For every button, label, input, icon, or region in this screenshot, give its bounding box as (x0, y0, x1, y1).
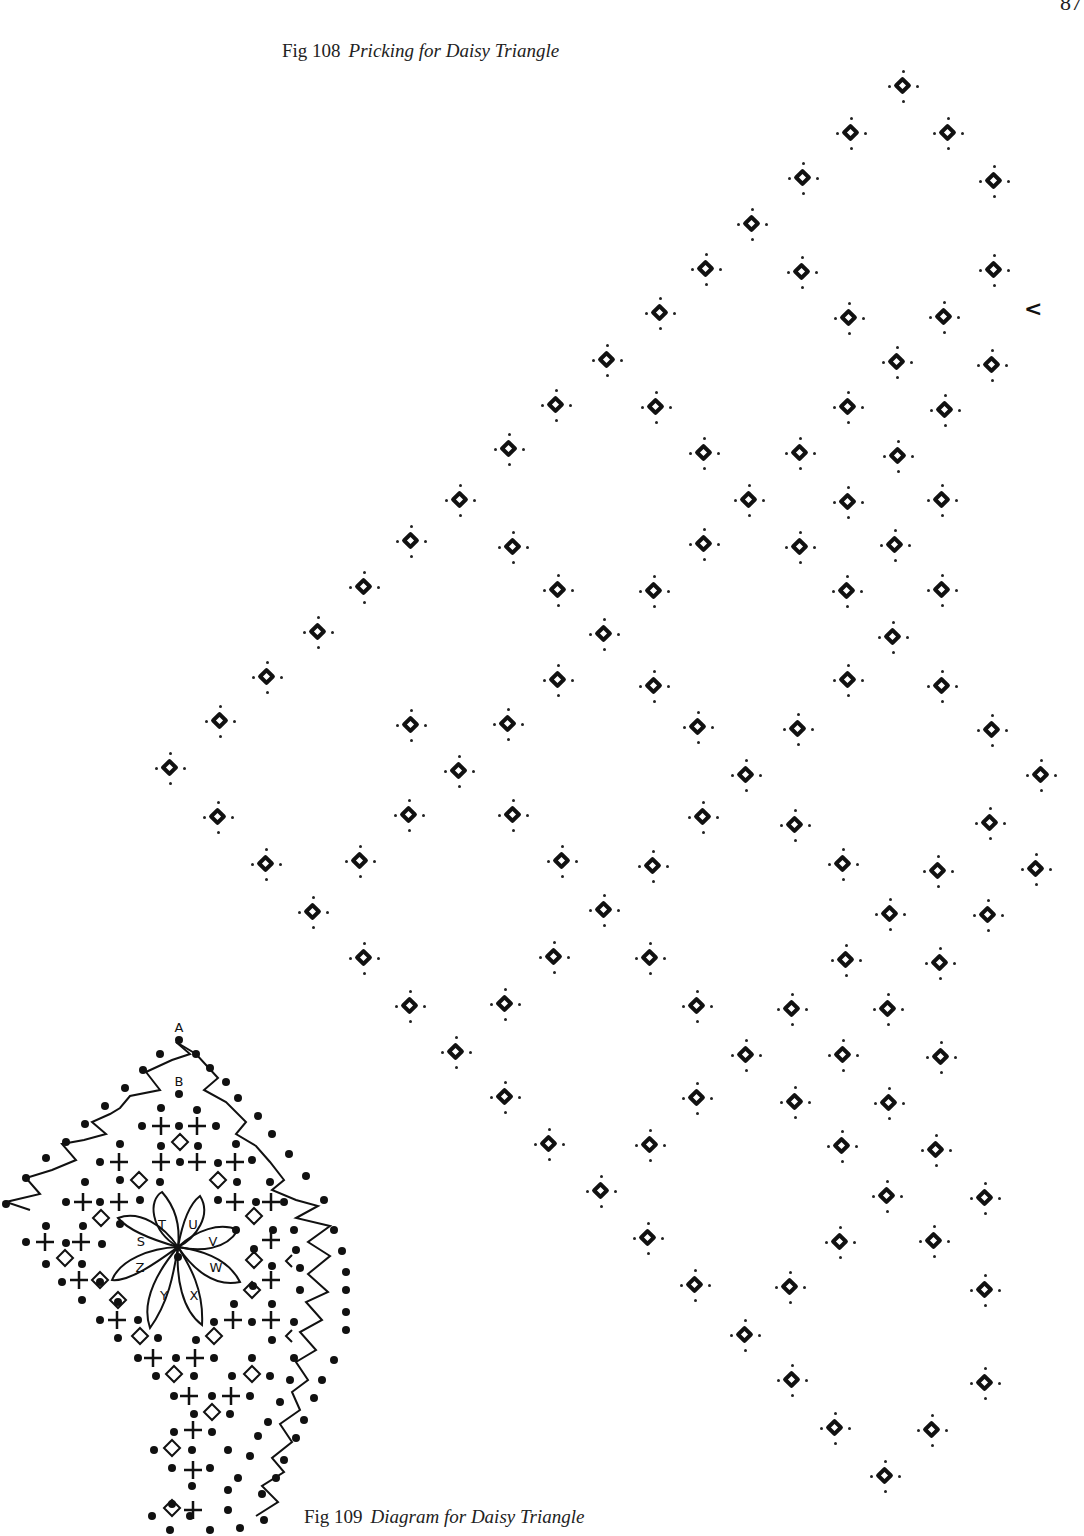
pin-dot (377, 586, 380, 589)
pricking-diamond-icon (932, 676, 950, 694)
pin-dot (828, 1054, 831, 1057)
pin-dot (653, 575, 656, 578)
pricking-diamond-icon (548, 580, 566, 598)
pin-dot (659, 297, 662, 300)
pricking-diamond-icon (885, 535, 903, 553)
pin-dot (649, 1159, 652, 1162)
pin-dot (265, 878, 268, 881)
pricking-diamond-icon (736, 765, 754, 783)
pin-dot (799, 437, 802, 440)
pin-dot (455, 1036, 458, 1039)
pricking-diamond-icon (548, 670, 566, 688)
pin-dot (847, 694, 850, 697)
pin-dot (841, 1160, 844, 1163)
pin-dot (902, 70, 905, 73)
pin-dot (941, 604, 944, 607)
pin-dot (543, 679, 546, 682)
pin-dot (363, 942, 366, 945)
diagram-label-w: W (210, 1260, 223, 1275)
pin-dot (745, 1069, 748, 1072)
pricking-diamond-icon (256, 854, 274, 872)
pin-dot (667, 685, 670, 688)
pricking-diamond-icon (552, 851, 570, 869)
pin-dot (862, 317, 865, 320)
pin-dot (921, 1149, 924, 1152)
pin-dot (926, 1056, 929, 1059)
pin-dot (839, 1226, 842, 1229)
pin-dot (512, 829, 515, 832)
pin-dot (680, 1284, 683, 1287)
pricking-diamond-icon (982, 720, 1000, 738)
pin-dot (458, 755, 461, 758)
pin-dot (799, 561, 802, 564)
pin-dot (861, 406, 864, 409)
pin-dot (423, 1005, 426, 1008)
pin-dot (797, 743, 800, 746)
pin-dot (363, 571, 366, 574)
pin-dot (522, 448, 525, 451)
pin-dot (396, 724, 399, 727)
pricking-diamond-icon (790, 443, 808, 461)
diagram-label-t: T (157, 1217, 166, 1232)
pin-dot (561, 875, 564, 878)
pin-dot (689, 452, 692, 455)
diagram-label-b: B (175, 1074, 184, 1089)
pin-dot (490, 1096, 493, 1099)
pin-dot (539, 956, 542, 959)
pin-dot (395, 1005, 398, 1008)
pin-dot (906, 636, 909, 639)
pin-dot (703, 467, 706, 470)
pin-dot (422, 814, 425, 817)
pricking-diamond-icon (449, 761, 467, 779)
pin-dot (949, 1149, 952, 1152)
pricking-diamond-icon (838, 397, 856, 415)
pin-dot (955, 685, 958, 688)
pin-dot (589, 909, 592, 912)
pin-dot (811, 728, 814, 731)
pin-dot (931, 1414, 934, 1417)
pin-dot (941, 484, 944, 487)
pin-dot (777, 1379, 780, 1382)
pin-dot (424, 724, 427, 727)
pricking-diamond-icon (696, 259, 714, 277)
lace-diagram-svg: A B T U V W X Y Z S (0, 1010, 360, 1536)
pin-dot (886, 1180, 889, 1183)
pin-dot (944, 394, 947, 397)
pin-dot (785, 452, 788, 455)
pin-dot (592, 359, 595, 362)
pin-dot (683, 726, 686, 729)
pin-dot (801, 286, 804, 289)
pin-dot (984, 1367, 987, 1370)
pin-dot (655, 421, 658, 424)
pin-dot (748, 484, 751, 487)
pricking-diamond-icon (785, 1092, 803, 1110)
chevron-mark-icon: < (1024, 298, 1042, 320)
pricking-diamond-icon (877, 1186, 895, 1204)
pin-dot (799, 531, 802, 534)
pin-dot (872, 1195, 875, 1198)
pricking-diamond-icon (257, 667, 275, 685)
pin-dot (359, 875, 362, 878)
pin-dot (846, 575, 849, 578)
pricking-diamond-icon (875, 1466, 893, 1484)
pin-dot (759, 774, 762, 777)
pin-dot (606, 374, 609, 377)
pricking-diamond-icon (503, 805, 521, 823)
pin-dot (940, 1041, 943, 1044)
diagram-label-a: A (175, 1020, 184, 1035)
pin-dot (394, 814, 397, 817)
pin-dot (1003, 822, 1006, 825)
pin-dot (831, 959, 834, 962)
pin-dot (569, 404, 572, 407)
pricking-diamond-icon (975, 1188, 993, 1206)
pin-dot (850, 147, 853, 150)
pin-dot (937, 855, 940, 858)
pin-dot (205, 720, 208, 723)
pin-dot (507, 738, 510, 741)
pin-dot (512, 799, 515, 802)
pricking-diamond-icon (539, 1134, 557, 1152)
pricking-diamond-icon (893, 76, 911, 94)
pin-dot (694, 1269, 697, 1272)
pin-dot (834, 317, 837, 320)
pin-dot (682, 1097, 685, 1100)
